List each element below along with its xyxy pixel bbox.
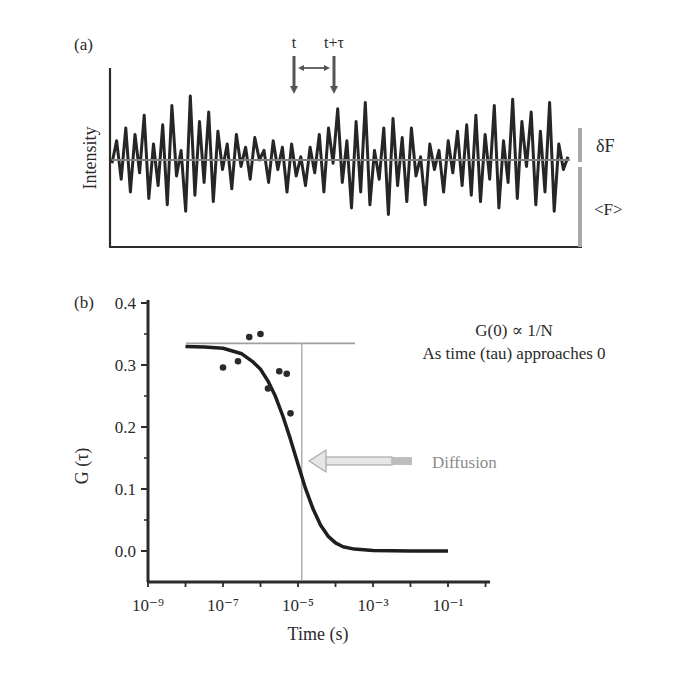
autocorrelation-fit-curve (186, 346, 449, 551)
x-ticks: 10⁻⁹10⁻⁷10⁻⁵10⁻³10⁻¹ (132, 582, 485, 615)
x-tick-label: 10⁻⁷ (207, 596, 239, 615)
data-point (265, 385, 272, 392)
data-point (283, 370, 290, 377)
panel-b-xlabel: Time (s) (288, 624, 349, 645)
tau-arrow-left-icon (298, 65, 304, 71)
data-point (246, 334, 253, 341)
y-tick-label: 0.3 (115, 356, 136, 375)
panel-b-ylabel: G (τ) (72, 448, 93, 485)
y-tick-label: 0.2 (115, 418, 136, 437)
diffusion-label: Diffusion (432, 453, 497, 472)
data-point (220, 364, 227, 371)
data-point (257, 331, 264, 338)
panel-b: (b) G (τ) Time (s) 0.00.10.20.30.4 10⁻⁹1… (72, 293, 606, 645)
tau-arrow-right-icon (324, 65, 330, 71)
panel-a-ylabel: Intensity (80, 127, 100, 190)
t-marker-arrowhead-icon (290, 86, 298, 94)
y-tick-label: 0.4 (115, 294, 137, 313)
mean-f-label: <F> (594, 200, 623, 219)
diffusion-arrow: Diffusion (309, 450, 497, 472)
t-label: t (292, 34, 297, 51)
g0-annotation: G(0) ∝ 1/N (475, 321, 553, 340)
intensity-trace (112, 96, 568, 214)
t-tau-label: t+τ (324, 34, 344, 51)
x-tick-label: 10⁻⁵ (282, 596, 314, 615)
x-tick-label: 10⁻⁹ (132, 596, 164, 615)
fluctuation-brackets: δF <F> (578, 128, 623, 247)
fcs-figure: (a) Intensity t t+τ δF <F> (b) G (τ) (0, 0, 681, 678)
t-tau-marker-arrowhead-icon (330, 86, 338, 94)
panel-b-label: (b) (74, 293, 94, 312)
delta-f-bar (578, 128, 582, 162)
y-tick-label: 0.1 (115, 480, 136, 499)
x-tick-label: 10⁻¹ (432, 596, 463, 615)
diffusion-arrow-tail (392, 457, 412, 465)
data-point (235, 358, 242, 365)
panel-a-label: (a) (74, 35, 93, 54)
diffusion-arrow-left-icon (309, 450, 326, 472)
tau-markers: t t+τ (290, 34, 345, 94)
data-point (276, 368, 283, 375)
data-point (287, 410, 294, 417)
y-tick-label: 0.0 (115, 542, 136, 561)
panel-a: (a) Intensity t t+τ δF <F> (74, 34, 623, 247)
x-tick-label: 10⁻³ (357, 596, 388, 615)
delta-f-label: δF (596, 136, 615, 156)
mean-f-bar (578, 167, 582, 247)
y-ticks: 0.00.10.20.30.4 (115, 294, 148, 561)
diffusion-arrow-shaft (322, 457, 392, 465)
g0-subtext: As time (tau) approaches 0 (422, 344, 605, 363)
